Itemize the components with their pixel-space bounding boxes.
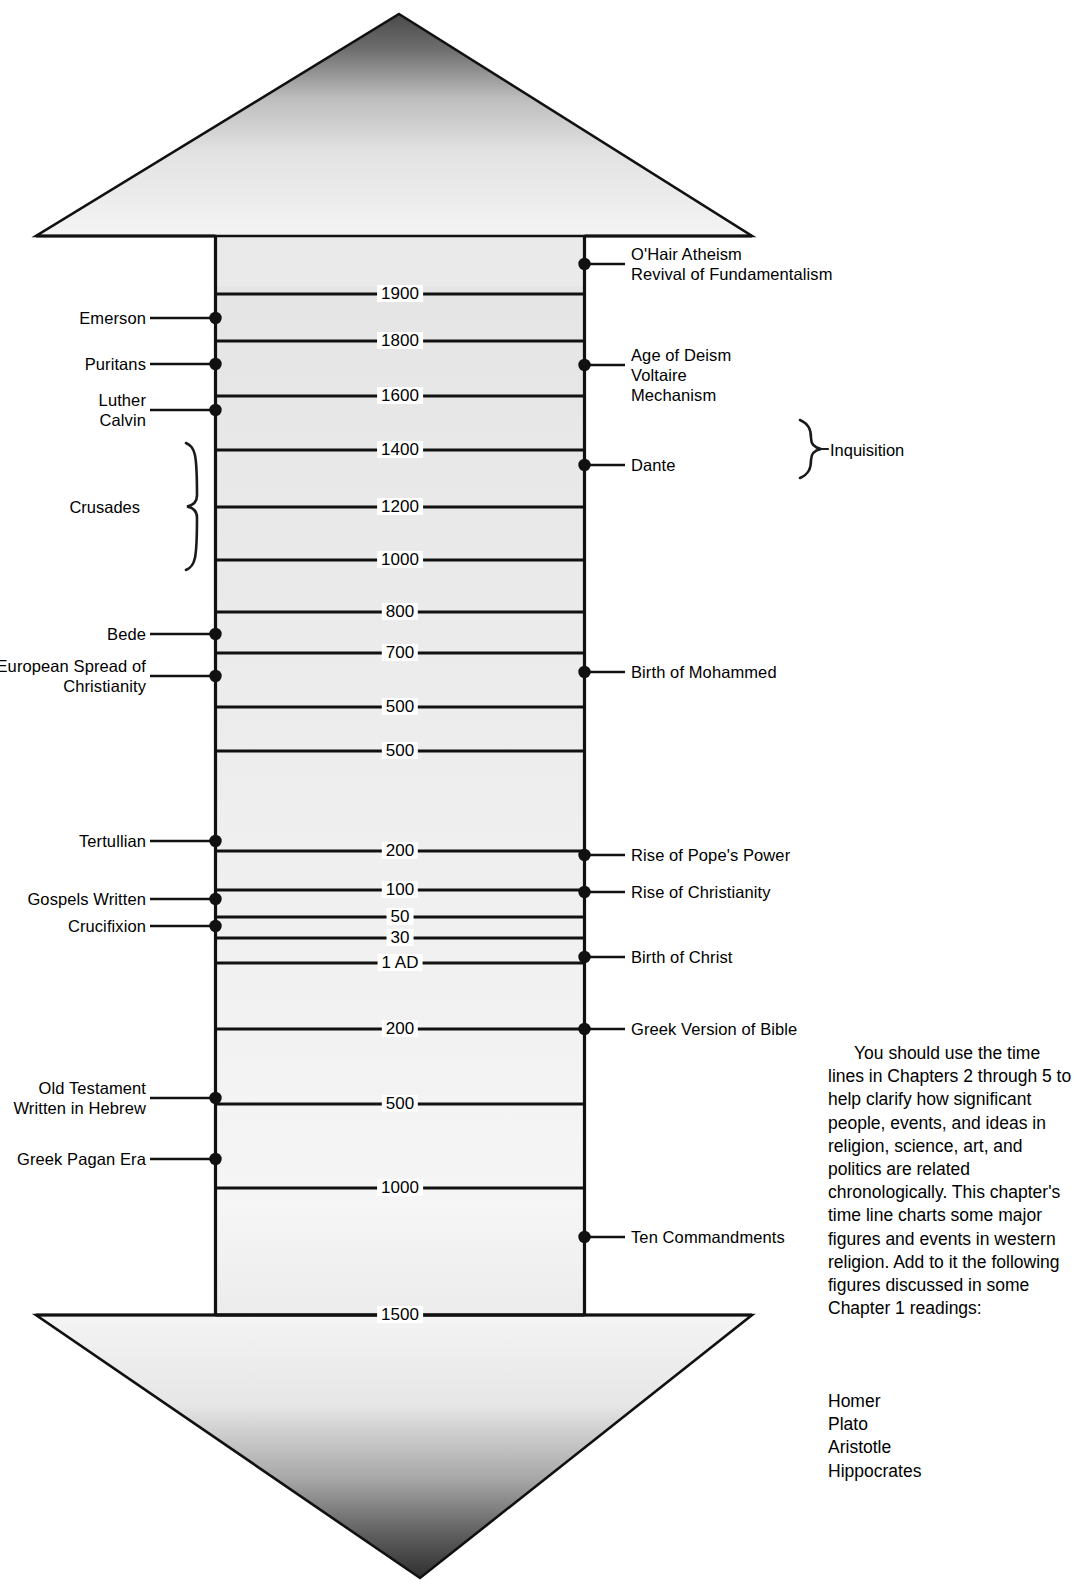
left-event-label: LutherCalvin [0, 390, 146, 430]
left-event-label: Bede [0, 624, 146, 644]
brace-label-inquisition: Inquisition [830, 440, 904, 460]
brace-label-crusades: Crusades [0, 497, 140, 517]
right-event-leaders [585, 264, 626, 1237]
right-event-label: Rise of Pope's Power [631, 845, 951, 865]
right-event-label: Greek Version of Bible [631, 1019, 951, 1039]
left-event-label: European Spread ofChristianity [0, 656, 146, 696]
left-event-label: Old TestamentWritten in Hebrew [0, 1078, 146, 1118]
left-event-label: Crucifixion [0, 916, 146, 936]
left-event-label: Greek Pagan Era [0, 1149, 146, 1169]
right-event-label: O'Hair AtheismRevival of Fundamentalism [631, 244, 951, 284]
timeline-graphic [0, 0, 1086, 1589]
right-event-label: Birth of Mohammed [631, 662, 951, 682]
left-event-label: Tertullian [0, 831, 146, 851]
side-note: You should use the time lines in Chapter… [828, 1042, 1076, 1320]
suggested-figure: Plato [828, 1413, 1076, 1436]
side-note-paragraph: You should use the time lines in Chapter… [828, 1042, 1076, 1320]
left-event-label: Emerson [0, 308, 146, 328]
left-event-label: Puritans [0, 354, 146, 374]
right-event-label: Age of DeismVoltaireMechanism [631, 345, 951, 405]
left-event-leaders [150, 318, 216, 1159]
timeline-figure: 1900180016001400120010008007005005002001… [0, 0, 1086, 1589]
right-event-label: Birth of Christ [631, 947, 951, 967]
arrow-head-up [36, 14, 752, 240]
suggested-figure: Aristotle [828, 1436, 1076, 1459]
suggested-figures-list: HomerPlatoAristotleHippocrates [828, 1390, 1076, 1483]
right-event-label: Rise of Christianity [631, 882, 951, 902]
left-event-label: Gospels Written [0, 889, 146, 909]
arrow-head-down [36, 1315, 752, 1578]
suggested-figure: Homer [828, 1390, 1076, 1413]
suggested-figure: Hippocrates [828, 1460, 1076, 1483]
